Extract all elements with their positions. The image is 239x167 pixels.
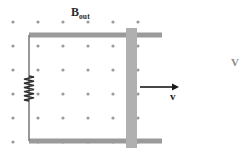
field-dot	[36, 68, 39, 71]
resistor-zigzag	[24, 76, 34, 101]
field-dot	[11, 116, 14, 119]
field-dot	[61, 44, 64, 47]
sliding-conducting-bar	[126, 28, 137, 148]
physics-diagram: Bout v V	[0, 0, 239, 167]
field-dot	[11, 68, 14, 71]
field-dot	[111, 44, 114, 47]
field-dot	[136, 20, 139, 23]
field-dot	[61, 68, 64, 71]
field-dot	[61, 116, 64, 119]
field-symbol: B	[71, 5, 79, 19]
field-dot	[86, 116, 89, 119]
field-dot	[36, 20, 39, 23]
field-dot	[61, 92, 64, 95]
field-dot	[11, 20, 14, 23]
field-dot	[11, 92, 14, 95]
field-dot	[36, 44, 39, 47]
diagram-canvas	[0, 0, 239, 167]
field-dot	[86, 44, 89, 47]
field-dot	[111, 116, 114, 119]
field-dot	[111, 20, 114, 23]
field-dot	[36, 116, 39, 119]
field-dot	[111, 68, 114, 71]
field-dot	[61, 20, 64, 23]
field-dot	[11, 140, 14, 143]
field-dot	[86, 68, 89, 71]
bottom-rail	[29, 139, 162, 144]
magnetic-field-label: Bout	[71, 6, 90, 18]
top-rail	[29, 33, 162, 38]
field-dot	[111, 92, 114, 95]
velocity-label: v	[170, 91, 176, 102]
field-subscript: out	[79, 12, 90, 21]
field-dot	[36, 92, 39, 95]
field-dot	[86, 92, 89, 95]
clipped-edge-glyph: V	[231, 57, 239, 68]
field-dot	[11, 44, 14, 47]
